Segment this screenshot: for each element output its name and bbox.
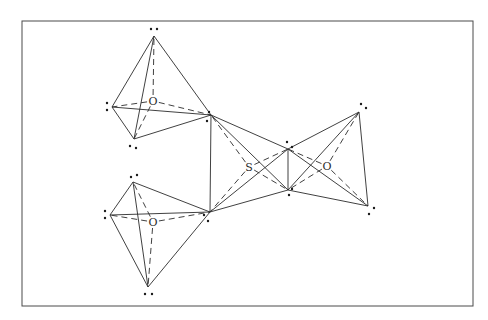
dashed-bond-line	[112, 102, 147, 107]
electron-dot	[130, 176, 132, 178]
bond-line	[211, 115, 288, 190]
dashed-bond-line	[211, 115, 245, 162]
bond-line	[210, 149, 288, 212]
bond-line	[288, 112, 359, 190]
bond-line	[210, 115, 211, 212]
electron-dot	[291, 146, 293, 148]
electron-dot	[104, 217, 106, 219]
electron-dot	[207, 220, 209, 222]
electron-dot	[291, 188, 293, 190]
atom-label-o2: O	[148, 216, 157, 229]
electron-dot	[151, 293, 153, 295]
bond-line	[134, 115, 211, 139]
bond-line	[359, 112, 368, 206]
electron-dot	[365, 107, 367, 109]
electron-dot	[106, 109, 108, 111]
electron-dot	[136, 174, 138, 176]
electron-dot	[135, 147, 137, 149]
lone-pair-dots	[104, 28, 375, 295]
bond-line	[112, 107, 211, 115]
dashed-bond-line	[110, 215, 147, 221]
electron-dot	[129, 145, 131, 147]
bond-line	[133, 182, 210, 212]
bond-line	[110, 215, 148, 287]
bond-line	[110, 212, 210, 215]
dashed-bond-line	[148, 228, 153, 287]
electron-dot	[373, 207, 375, 209]
electron-dot	[144, 293, 146, 295]
atom-label-o1: O	[148, 95, 157, 108]
dashed-bond-line	[331, 170, 368, 206]
dashed-bond-line	[210, 172, 245, 212]
dashed-bond-line	[288, 169, 322, 190]
electron-dot	[368, 213, 370, 215]
electron-dot	[360, 103, 362, 105]
electron-dot	[288, 194, 290, 196]
bond-line	[288, 149, 368, 206]
lewis-structure-diagram: O O S O	[0, 0, 488, 320]
atom-label-o3: O	[322, 160, 331, 173]
bond-line	[210, 190, 288, 212]
electron-dot	[106, 102, 108, 104]
atom-labels: O O S O	[148, 95, 331, 229]
electron-dot	[203, 214, 205, 216]
electron-dot	[104, 210, 106, 212]
bond-line	[134, 36, 154, 139]
dashed-bond-line	[153, 36, 154, 95]
electron-dot	[208, 111, 210, 113]
atom-label-s: S	[245, 161, 253, 174]
electron-dot	[150, 28, 152, 30]
bond-line	[110, 182, 133, 215]
dashed-bond-line	[134, 106, 150, 139]
bond-line	[112, 107, 134, 139]
bond-line	[211, 115, 288, 149]
diagram-svg: O O S O	[0, 0, 488, 320]
electron-dot	[156, 28, 158, 30]
electron-dot	[206, 120, 208, 122]
electron-dot	[286, 141, 288, 143]
